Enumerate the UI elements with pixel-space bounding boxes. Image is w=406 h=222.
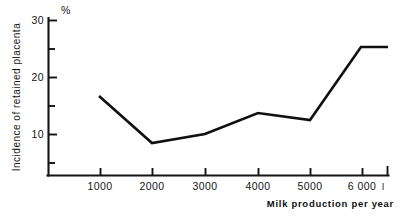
x-tick-label-1000: 1000 [88, 180, 113, 192]
x-axis-title: Milk production per year [267, 198, 394, 209]
y-tick-label-10: 10 [32, 128, 44, 140]
x-axis-unit-litre: l [382, 181, 384, 192]
x-tick-label-4000: 4000 [246, 180, 271, 192]
y-axis-unit-percent: % [61, 4, 70, 16]
x-tick-label-3000: 3000 [193, 180, 218, 192]
y-tick-label-30: 30 [32, 14, 44, 26]
chart-figure: 30 20 10 % 1000 2000 3000 4000 5000 6 00… [0, 0, 406, 222]
line-chart-canvas: 30 20 10 % 1000 2000 3000 4000 5000 6 00… [0, 0, 406, 222]
x-tick-label-6000: 6 000 [348, 180, 376, 192]
x-tick-label-5000: 5000 [298, 180, 323, 192]
y-axis-title: Incidence of retained placenta [11, 23, 22, 171]
x-tick-label-2000: 2000 [140, 180, 165, 192]
y-tick-label-20: 20 [32, 71, 44, 83]
